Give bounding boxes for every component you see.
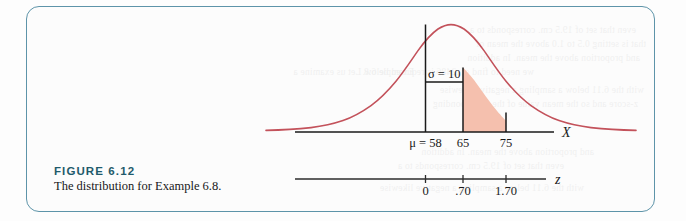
z-tick-label-170: 1.70	[495, 184, 517, 198]
x-axis-label: X	[561, 125, 571, 140]
figure-caption-block: FIGURE 6.12 The distribution for Example…	[54, 164, 354, 194]
sigma-annotation-label: σ = 10	[428, 67, 461, 81]
x-tick-label-mean: μ = 58	[409, 136, 442, 150]
x-tick-label-75: 75	[500, 136, 513, 150]
figure-root: even that set of 19.5 cm. corresponds to…	[0, 0, 686, 221]
figure-number-label: FIGURE 6.12	[54, 164, 354, 178]
figure-frame: even that set of 19.5 cm. corresponds to…	[26, 6, 655, 212]
z-axis-label: z	[554, 172, 561, 187]
x-tick-label-65: 65	[457, 136, 470, 150]
z-tick-label-0: 0	[422, 184, 428, 198]
figure-caption-text: The distribution for Example 6.8.	[54, 179, 354, 194]
z-tick-label-070: .70	[455, 184, 471, 198]
shaded-probability-region	[463, 68, 506, 132]
